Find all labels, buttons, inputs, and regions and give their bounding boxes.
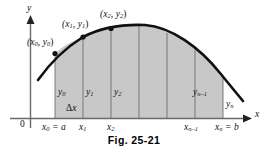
ordinate-y1: y1 (86, 88, 94, 98)
curve-point-1 (80, 34, 85, 39)
point-label-2-close: ) (123, 9, 126, 19)
y-axis-label: y (27, 4, 31, 14)
curve-point-2 (108, 26, 113, 31)
point-label-0-close: ) (50, 37, 53, 47)
x-axis-arrowhead (243, 115, 252, 123)
delta-x-label: Δx (66, 104, 77, 114)
ordinate-yn-1-sub: n–1 (197, 90, 207, 97)
ordinate-y2: y2 (114, 88, 122, 98)
figure-container: y x 0 (x0, y0) (x1, y1) (x2, y2) y0 y1 y… (0, 0, 268, 152)
point-label-1: (x1, y1) (62, 20, 89, 30)
tick-x1: x1 (79, 123, 87, 133)
ordinate-y0: y0 (58, 88, 66, 98)
tick-xn-equals-b: xn = b (215, 123, 239, 133)
tick-xn-1: xn–1 (184, 123, 198, 133)
ordinate-y1-sub: 1 (90, 90, 93, 97)
ordinate-yn: yn (226, 100, 234, 110)
x-axis-label: x (255, 110, 259, 120)
tick-xn-suffix: = b (223, 122, 239, 132)
curve-point-0 (52, 51, 57, 56)
point-label-2-base: (x (100, 9, 108, 19)
ordinate-y0-sub: 0 (62, 90, 65, 97)
tick-x0-equals-a: x0 = a (42, 123, 66, 133)
tick-x1-sub: 1 (83, 125, 86, 132)
y-axis (27, 15, 35, 128)
point-label-1-close: ) (85, 19, 88, 29)
ordinate-yn-1: yn–1 (193, 88, 207, 98)
delta-x-base: x (72, 103, 76, 113)
point-label-1-mid: , y (73, 19, 82, 29)
tick-xn-1-sub: n–1 (188, 125, 198, 132)
point-label-2: (x2, y2) (100, 10, 127, 20)
point-label-0-mid: , y (38, 37, 47, 47)
point-label-2-mid: , y (111, 9, 120, 19)
tick-x2: x2 (107, 123, 115, 133)
tick-x0-suffix: = a (50, 122, 66, 132)
y-axis-arrowhead (27, 15, 35, 24)
origin-label: 0 (20, 120, 25, 130)
ordinate-yn-sub: n (230, 102, 233, 109)
point-label-1-base: (x (62, 19, 70, 29)
ordinate-y2-sub: 2 (118, 90, 121, 97)
point-label-0-base: (x (27, 37, 35, 47)
point-label-0: (x0, y0) (27, 38, 54, 48)
figure-caption: Fig. 25-21 (0, 134, 268, 146)
tick-x2-sub: 2 (111, 125, 114, 132)
